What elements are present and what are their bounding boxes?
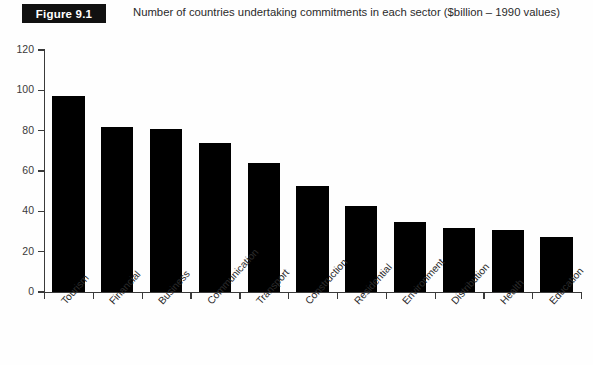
y-axis-tick-label: 100: [0, 83, 34, 95]
chart-plot-area: 020406080100120 TourismFinancialBusiness…: [0, 0, 593, 365]
x-axis-tick: [142, 292, 143, 299]
x-axis-tick: [288, 292, 289, 299]
bar: [199, 143, 231, 292]
y-axis-tick: [38, 170, 44, 171]
y-axis-tick-label: 80: [0, 124, 34, 136]
y-axis-tick-label: 120: [0, 43, 34, 55]
x-axis-tick: [386, 292, 387, 299]
bar: [52, 96, 84, 292]
x-axis-tick: [337, 292, 338, 299]
y-axis-tick: [38, 251, 44, 252]
bar: [248, 163, 280, 292]
x-axis-tick: [483, 292, 484, 299]
x-axis-tick: [581, 292, 582, 299]
y-axis-tick: [38, 211, 44, 212]
bar: [101, 127, 133, 292]
y-axis-tick: [38, 90, 44, 91]
y-axis-line: [44, 49, 45, 293]
x-axis-tick: [532, 292, 533, 299]
y-axis-tick: [38, 130, 44, 131]
x-axis-tick: [239, 292, 240, 299]
y-axis-tick: [38, 49, 44, 50]
y-axis-tick-label: 40: [0, 204, 34, 216]
y-axis-tick-label: 60: [0, 164, 34, 176]
bar: [150, 129, 182, 292]
x-axis-tick: [44, 292, 45, 299]
y-axis-tick-label: 0: [0, 285, 34, 297]
x-axis-tick: [435, 292, 436, 299]
x-axis-tick: [93, 292, 94, 299]
x-axis-tick: [190, 292, 191, 299]
figure-container: Figure 9.1 Number of countries undertaki…: [0, 0, 593, 365]
y-axis-tick-label: 20: [0, 245, 34, 257]
